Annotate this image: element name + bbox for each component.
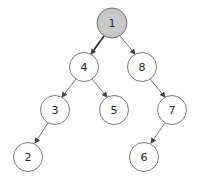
node-label: 7 bbox=[169, 104, 176, 117]
tree-node-5: 5 bbox=[100, 96, 129, 125]
tree-node-7: 7 bbox=[158, 96, 187, 125]
node-label: 1 bbox=[109, 17, 116, 30]
edge-7-6 bbox=[151, 123, 165, 143]
tree-node-4: 4 bbox=[70, 53, 99, 82]
tree-node-6: 6 bbox=[130, 143, 159, 172]
edge-4-5 bbox=[92, 79, 107, 97]
node-label: 2 bbox=[25, 151, 32, 164]
edge-1-4 bbox=[91, 36, 104, 54]
edge-4-3 bbox=[62, 79, 76, 97]
tree-node-2: 2 bbox=[14, 143, 43, 172]
edge-3-2 bbox=[35, 123, 48, 143]
edge-1-8 bbox=[120, 36, 135, 54]
node-label: 3 bbox=[52, 104, 59, 117]
node-label: 8 bbox=[139, 61, 146, 74]
tree-node-3: 3 bbox=[41, 96, 70, 125]
tree-diagram: 1 4 8 3 5 7 2 6 bbox=[0, 0, 201, 182]
node-label: 4 bbox=[81, 61, 88, 74]
tree-node-8: 8 bbox=[128, 53, 157, 82]
node-label: 6 bbox=[141, 151, 148, 164]
tree-node-1: 1 bbox=[97, 8, 127, 38]
edge-8-7 bbox=[150, 79, 165, 97]
node-label: 5 bbox=[111, 104, 118, 117]
